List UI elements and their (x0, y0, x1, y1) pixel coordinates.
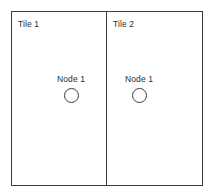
tile-2[interactable]: Tile 2 Node 1 (107, 12, 202, 185)
tile-2-node-label: Node 1 (111, 74, 167, 84)
tile-2-node-group[interactable]: Node 1 (111, 74, 167, 103)
diagram-canvas: Tile 1 Node 1 Tile 2 Node 1 (0, 0, 215, 195)
tile-2-label: Tile 2 (113, 19, 134, 29)
tile-grid: Tile 1 Node 1 Tile 2 Node 1 (11, 11, 203, 186)
tile-1-node-label: Node 1 (43, 74, 99, 84)
tile-1[interactable]: Tile 1 Node 1 (12, 12, 107, 185)
tile-1-label: Tile 1 (18, 19, 39, 29)
circle-icon (132, 88, 147, 103)
circle-icon (64, 88, 79, 103)
tile-1-node-group[interactable]: Node 1 (43, 74, 99, 103)
